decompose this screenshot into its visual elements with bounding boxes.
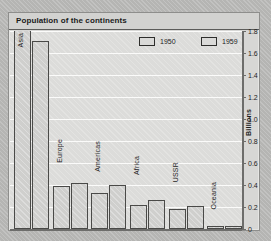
category-label-americas: Americas <box>94 141 101 172</box>
bar-series-container: AsiaEuropeAmericasAfricaUSSROceania <box>10 31 242 229</box>
bar-group-oceania: Oceania <box>207 31 242 229</box>
category-label-europe: Europe <box>56 139 63 163</box>
bar-ussr-1950[interactable] <box>169 209 186 229</box>
legend-label-1959: 1959 <box>222 38 238 45</box>
legend-item-1950: 1950 <box>139 37 176 46</box>
y-axis-title: Billions <box>245 109 252 136</box>
bar-group-americas: Americas <box>91 31 126 229</box>
legend-label-1950: 1950 <box>160 38 176 45</box>
y-axis-tick <box>242 75 246 76</box>
legend-swatch-1950 <box>139 37 155 46</box>
bar-europe-1950[interactable] <box>53 186 70 229</box>
y-axis-tick <box>242 229 246 230</box>
bar-ussr-1959[interactable] <box>187 206 204 229</box>
chart-title-bar: Population of the continents <box>9 13 259 30</box>
category-label-oceania: Oceania <box>210 182 217 209</box>
y-axis-tick-label: 0.4 <box>248 182 258 189</box>
y-axis-tick-label: 0.2 <box>248 204 258 211</box>
category-label-ussr: USSR <box>172 162 179 182</box>
bar-group-ussr: USSR <box>169 31 204 229</box>
y-axis-tick-label: 0 <box>248 226 252 233</box>
legend-item-1959: 1959 <box>201 37 238 46</box>
bar-asia-1950[interactable] <box>14 31 31 229</box>
bar-asia-1959[interactable] <box>32 41 49 229</box>
chart-panel: Population of the continents AsiaEuropeA… <box>8 12 260 231</box>
chart-screenshot: Population of the continents AsiaEuropeA… <box>0 0 271 241</box>
category-label-africa: Africa <box>133 156 140 175</box>
bar-group-asia: Asia <box>14 31 49 229</box>
bar-group-africa: Africa <box>130 31 165 229</box>
y-axis-tick <box>242 53 246 54</box>
y-axis-tick-label: 1.2 <box>248 94 258 101</box>
category-label-asia: Asia <box>17 33 24 47</box>
plot-area: AsiaEuropeAmericasAfricaUSSROceania <box>10 31 242 229</box>
bar-americas-1950[interactable] <box>91 193 108 229</box>
bar-americas-1959[interactable] <box>109 185 126 229</box>
bar-africa-1959[interactable] <box>148 200 165 229</box>
y-axis-line <box>242 31 244 230</box>
y-axis-tick-label: 1.6 <box>248 50 258 57</box>
y-axis-tick <box>242 185 246 186</box>
y-axis-tick-label: 1.8 <box>248 28 258 35</box>
x-axis-line <box>10 229 242 231</box>
y-axis-tick-label: 0.6 <box>248 160 258 167</box>
legend-swatch-1959 <box>201 37 217 46</box>
bar-europe-1959[interactable] <box>71 183 88 229</box>
y-axis-tick <box>242 207 246 208</box>
y-axis-tick <box>242 163 246 164</box>
chart-title: Population of the continents <box>16 16 127 25</box>
y-axis-tick-label: 1.4 <box>248 72 258 79</box>
y-axis-tick-label: 0.8 <box>248 138 258 145</box>
y-axis-tick <box>242 141 246 142</box>
bar-group-europe: Europe <box>53 31 88 229</box>
y-axis-tick <box>242 97 246 98</box>
bar-africa-1950[interactable] <box>130 205 147 229</box>
y-axis-tick <box>242 31 246 32</box>
